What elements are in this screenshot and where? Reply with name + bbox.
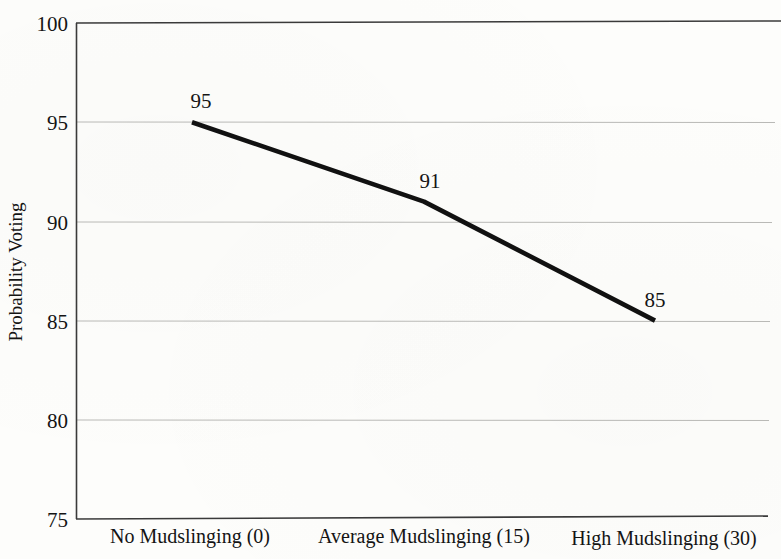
y-axis-title: Probability Voting <box>5 202 26 342</box>
axis-frame <box>76 21 781 519</box>
y-tick-label-100: 100 <box>37 12 69 36</box>
gridline-95 <box>76 122 775 123</box>
data-line-probability-voting <box>192 122 655 320</box>
data-label-1: 91 <box>420 169 441 193</box>
x-tick-label-no-mudslinging: No Mudslinging (0) <box>110 525 270 548</box>
gridlines <box>76 122 775 421</box>
y-tick-labels: 100 95 90 85 80 75 <box>37 12 69 532</box>
x-tick-label-high-mudslinging: High Mudslinging (30) <box>571 527 757 550</box>
chart-container: 100 95 90 85 80 75 Probability Voting 95… <box>0 0 781 559</box>
y-tick-label-90: 90 <box>47 211 68 235</box>
y-tick-label-95: 95 <box>47 111 68 135</box>
top-border <box>76 21 781 23</box>
y-tick-label-75: 75 <box>47 508 68 532</box>
x-axis-line <box>76 516 768 519</box>
x-tick-label-average-mudslinging: Average Mudslinging (15) <box>318 525 530 548</box>
y-tick-label-85: 85 <box>47 310 68 334</box>
x-tick-labels: No Mudslinging (0) Average Mudslinging (… <box>110 525 757 550</box>
gridline-90 <box>76 222 772 223</box>
gridline-85 <box>76 321 770 322</box>
data-label-0: 95 <box>191 89 212 113</box>
gridline-80 <box>76 420 769 421</box>
line-chart: 100 95 90 85 80 75 Probability Voting 95… <box>0 0 781 559</box>
data-label-2: 85 <box>645 288 666 312</box>
y-tick-label-80: 80 <box>47 409 68 433</box>
